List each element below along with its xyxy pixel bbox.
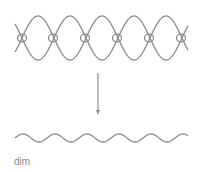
- wave-b: [15, 16, 188, 60]
- resultant-wave: [15, 134, 188, 142]
- diagram-canvas: dim: [0, 0, 201, 172]
- caption-label: dim: [14, 156, 30, 167]
- superposed-waves: [15, 16, 188, 60]
- wave-diagram: [0, 0, 201, 172]
- down-arrow-icon: [96, 73, 100, 115]
- dimmed-wave: [15, 134, 188, 142]
- wave-a: [15, 16, 188, 60]
